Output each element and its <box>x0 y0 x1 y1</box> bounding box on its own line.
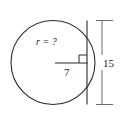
segment-length-label: 7 <box>64 66 70 78</box>
figure-canvas: r = ? 7 15 <box>0 0 122 119</box>
geometry-figure: r = ? 7 15 <box>0 0 122 119</box>
chord-length-label: 15 <box>103 57 115 69</box>
right-angle-marker-icon <box>79 55 87 63</box>
radius-unknown-label: r = ? <box>36 36 57 47</box>
